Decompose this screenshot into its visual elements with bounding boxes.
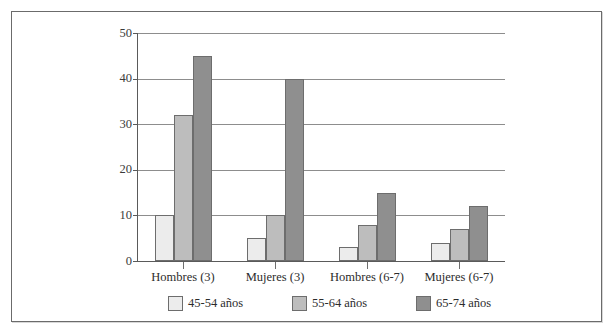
bar-mujeres-3-55-64 <box>266 215 285 261</box>
bar-hombres-3-45-54 <box>155 215 174 261</box>
x-axis-tick-mark-1 <box>275 262 276 269</box>
y-axis-tick-label-10: 10 <box>92 209 132 222</box>
bar-mujeres-67-65-74 <box>469 206 488 261</box>
y-axis-tick-label-20: 20 <box>92 163 132 176</box>
gridline-50 <box>137 33 505 34</box>
x-axis-tick-label-mujeres-3: Mujeres (3) <box>225 271 325 285</box>
legend-swatch-55-64 <box>292 296 307 311</box>
y-axis-tick-label-40: 40 <box>92 72 132 85</box>
bar-hombres-3-65-74 <box>193 56 212 261</box>
legend-item-55-64: 55-64 años <box>292 294 367 312</box>
x-axis-tick-label-hombres-3: Hombres (3) <box>133 271 233 285</box>
legend-label-55-64: 55-64 años <box>312 297 367 310</box>
legend-item-65-74: 65-74 años <box>416 294 491 312</box>
bar-mujeres-3-45-54 <box>247 238 266 261</box>
x-axis-tick-label-mujeres-67: Mujeres (6-7) <box>404 271 514 285</box>
y-axis-tick-label-0: 0 <box>92 255 132 268</box>
x-axis-tick-mark-3 <box>459 262 460 269</box>
x-axis-tick-mark-2 <box>367 262 368 269</box>
bar-mujeres-3-65-74 <box>285 79 304 261</box>
bar-mujeres-67-45-54 <box>431 243 450 261</box>
legend-swatch-45-54 <box>168 296 183 311</box>
legend-label-65-74: 65-74 años <box>436 297 491 310</box>
chart-figure: 50 40 30 20 10 0 Hom <box>0 0 614 335</box>
legend-item-45-54: 45-54 años <box>168 294 243 312</box>
y-axis-tick-label-50: 50 <box>92 27 132 40</box>
chart-legend: 45-54 años 55-64 años 65-74 años <box>137 294 505 312</box>
plot-area <box>137 33 505 261</box>
bar-hombres-67-65-74 <box>377 193 396 261</box>
x-axis-line <box>137 261 505 262</box>
bar-mujeres-67-55-64 <box>450 229 469 261</box>
y-axis-tick-label-30: 30 <box>92 118 132 131</box>
x-axis-tick-mark-0 <box>183 262 184 269</box>
bar-hombres-67-45-54 <box>339 247 358 261</box>
legend-swatch-65-74 <box>416 296 431 311</box>
bar-hombres-3-55-64 <box>174 115 193 261</box>
bar-hombres-67-55-64 <box>358 225 377 261</box>
y-axis-line <box>137 33 138 261</box>
legend-label-45-54: 45-54 años <box>188 297 243 310</box>
